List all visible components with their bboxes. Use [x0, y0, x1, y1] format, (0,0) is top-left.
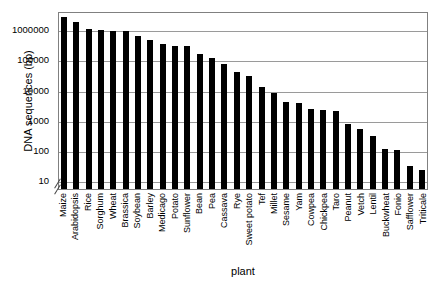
x-axis-tick: Peanut [345, 191, 351, 261]
x-axis-tick-label: Wheat [108, 193, 117, 219]
x-axis-tick: Bean [196, 191, 202, 261]
x-axis-title: plant [58, 265, 428, 277]
x-axis-tick: Pea [209, 191, 215, 261]
bar[interactable] [271, 93, 277, 189]
y-axis-tick-label: 1000 [28, 116, 49, 126]
x-axis-tick-label: Taro [331, 193, 340, 211]
bar[interactable] [135, 36, 141, 189]
y-axis-tick-label: 100 [33, 146, 49, 156]
x-axis-tick: Sorghum [97, 191, 103, 261]
x-axis-tick-label: Vetch [356, 193, 365, 216]
bar[interactable] [407, 166, 413, 190]
bar[interactable] [308, 109, 314, 189]
x-axis-tick-label: Sunflower [183, 193, 192, 233]
x-axis-tick: Lentil [370, 191, 376, 261]
bar[interactable] [394, 150, 400, 189]
bar[interactable] [345, 124, 351, 189]
x-axis-tick-label: Safflower [406, 193, 415, 230]
bar[interactable] [110, 31, 116, 189]
bar[interactable] [333, 111, 339, 190]
bar[interactable] [370, 136, 376, 189]
bar[interactable] [160, 44, 166, 189]
y-axis-tick-label: 1000000 [12, 25, 49, 35]
bar[interactable] [259, 87, 265, 189]
x-axis-tick-label: Brassica [121, 193, 130, 228]
x-axis-tick: Sweet potato [246, 191, 252, 261]
bar-chart-figure: DNA sequences (bp) 101001000100001000001… [0, 0, 444, 289]
x-axis-tick: Sunflower [184, 191, 190, 261]
x-axis-tick-label: Rye [232, 193, 241, 209]
x-axis-tick: Cassava [221, 191, 227, 261]
bar[interactable] [73, 22, 79, 189]
x-axis-tick-label: Sorghum [96, 193, 105, 230]
x-axis-tick-label: Arabidopsis [71, 193, 80, 240]
bar[interactable] [209, 58, 215, 189]
y-axis-tick-label: 100000 [17, 56, 49, 66]
x-axis-tick: Brassica [122, 191, 128, 261]
y-axis-tick-labels: 101001000100001000001000000 [0, 0, 56, 289]
x-axis-tick: Triticale [420, 191, 426, 261]
x-axis-tick-label: Lentil [369, 193, 378, 215]
x-axis-tick-label: Potato [170, 193, 179, 219]
y-axis-tick-label: 10000 [23, 86, 49, 96]
bar[interactable] [296, 103, 302, 189]
x-axis-tick-label: Rice [83, 193, 92, 211]
x-axis-tick: Barley [147, 191, 153, 261]
x-axis-tick: Rye [234, 191, 240, 261]
x-axis-tick-label: Triticale [418, 193, 427, 224]
x-axis-tick: Fonio [395, 191, 401, 261]
bar[interactable] [86, 29, 92, 190]
x-axis-tick-label: Millet [269, 193, 278, 214]
bar-series [59, 13, 427, 189]
bar[interactable] [357, 129, 363, 189]
x-axis-tick-labels: MaizeArabidopsisRiceSorghumWheatBrassica… [58, 191, 428, 261]
x-axis-tick-label: Medicago [158, 193, 167, 232]
x-axis-tick: Safflower [407, 191, 413, 261]
x-axis-tick: Medicago [159, 191, 165, 261]
y-axis-tick-label: 10 [38, 176, 49, 186]
x-axis-tick-label: Buckwheat [381, 193, 390, 237]
x-axis-tick-label: Cowpea [307, 193, 316, 226]
x-axis-tick: Buckwheat [383, 191, 389, 261]
x-axis-tick: Vetch [358, 191, 364, 261]
x-axis-tick: Soybean [134, 191, 140, 261]
x-axis-tick-label: Tef [257, 193, 266, 205]
x-axis-tick-label: Sesame [282, 193, 291, 226]
bar[interactable] [197, 54, 203, 189]
bar[interactable] [320, 110, 326, 189]
x-axis-tick: Yam [296, 191, 302, 261]
x-axis-tick: Potato [172, 191, 178, 261]
x-axis-tick-label: Pea [207, 193, 216, 209]
x-axis-tick-label: Chickpea [319, 193, 328, 231]
bar[interactable] [61, 17, 67, 189]
bar[interactable] [184, 46, 190, 189]
x-axis-tick: Wheat [110, 191, 116, 261]
x-axis-tick-label: Cassava [220, 193, 229, 228]
x-axis-tick-label: Soybean [133, 193, 142, 229]
x-axis-tick-label: Peanut [344, 193, 353, 222]
x-axis-tick: Tef [259, 191, 265, 261]
x-axis-tick-label: Maize [59, 193, 68, 217]
x-axis-tick-label: Bean [195, 193, 204, 214]
bar[interactable] [221, 64, 227, 189]
bar[interactable] [419, 170, 425, 189]
plot-area [58, 12, 428, 190]
x-axis-tick: Rice [85, 191, 91, 261]
x-axis-tick: Sesame [283, 191, 289, 261]
x-axis-tick: Maize [60, 191, 66, 261]
bar[interactable] [234, 72, 240, 189]
x-axis-tick: Arabidopsis [72, 191, 78, 261]
x-axis-tick: Taro [333, 191, 339, 261]
x-axis-tick: Millet [271, 191, 277, 261]
bar[interactable] [172, 46, 178, 189]
x-axis-tick-label: Yam [294, 193, 303, 211]
x-axis-tick-label: Barley [145, 193, 154, 219]
bar[interactable] [123, 31, 129, 189]
bar[interactable] [283, 102, 289, 190]
x-axis-tick-label: Fonio [393, 193, 402, 216]
bar[interactable] [147, 40, 153, 189]
bar[interactable] [382, 149, 388, 190]
bar[interactable] [246, 76, 252, 189]
bar[interactable] [98, 30, 104, 189]
x-axis-tick: Chickpea [321, 191, 327, 261]
